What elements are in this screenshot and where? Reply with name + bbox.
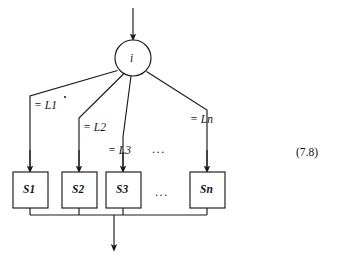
statement-box-label-sn: Sn — [200, 184, 213, 196]
guard-label-3: = L3 — [108, 145, 131, 157]
guard-ellipsis: ... — [152, 143, 166, 155]
flowchart-diagram — [0, 0, 342, 264]
decision-node-label: i — [130, 53, 133, 65]
figure-container: i = L1 = L2 = L3 = Ln ... ... S1 S2 S3 S… — [0, 0, 342, 264]
guard-label-1: = L1 — [34, 100, 57, 112]
guard-label-n: = Ln — [190, 114, 213, 126]
statement-box-label-s1: S1 — [23, 184, 35, 196]
guard-label-2: = L2 — [83, 122, 106, 134]
box-ellipsis: ... — [155, 186, 169, 198]
statement-box-label-s3: S3 — [116, 184, 128, 196]
branch-line-1 — [30, 71, 118, 168]
statement-box-label-s2: S2 — [72, 184, 84, 196]
equation-number: (7.8) — [296, 147, 318, 159]
ink-speck — [64, 96, 66, 98]
